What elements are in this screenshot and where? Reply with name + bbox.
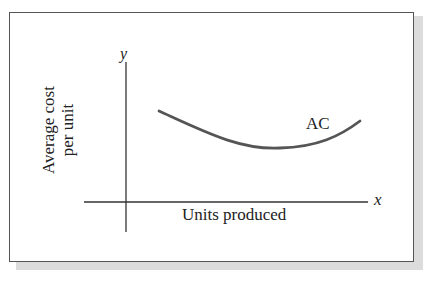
y-axis-label-line2: per unit (58, 70, 77, 190)
y-axis-label: Average cost per unit (39, 70, 77, 190)
x-axis-label: Units produced (182, 205, 286, 225)
y-axis-symbol: y (120, 45, 127, 63)
curve-label-ac: AC (306, 114, 330, 134)
ac-curve (159, 111, 360, 148)
x-axis-symbol: x (374, 190, 382, 210)
y-axis-label-line1: Average cost (39, 70, 58, 190)
